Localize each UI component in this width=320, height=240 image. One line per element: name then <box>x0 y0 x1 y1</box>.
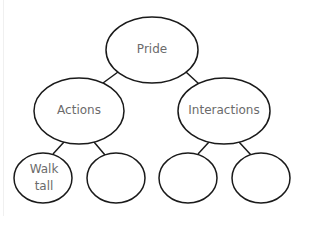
edge-pride-actions <box>103 72 118 83</box>
label-pride: Pride <box>137 41 167 58</box>
node-interactions-blank-1 <box>159 153 217 203</box>
node-interactions-blank-2 <box>232 153 290 203</box>
label-walk-tall: Walk tall <box>30 161 59 195</box>
edge-pride-interactions <box>186 72 199 84</box>
edge-interactions-blank-1 <box>198 142 209 154</box>
edge-actions-walk-tall <box>53 142 64 154</box>
edge-actions-blank <box>94 142 105 155</box>
edge-interactions-blank-2 <box>239 142 251 155</box>
node-actions-blank <box>87 153 145 203</box>
label-actions: Actions <box>57 102 101 119</box>
label-interactions: Interactions <box>188 102 259 119</box>
